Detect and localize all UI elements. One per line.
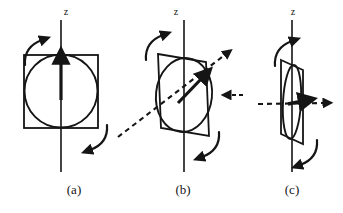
precession-arrow-upper-c [275, 41, 292, 66]
panel-label-c: (c) [272, 182, 312, 198]
panel-b [118, 20, 226, 172]
panel-a [24, 20, 107, 172]
z-axis-label-b: z [166, 6, 186, 17]
z-axis-label-a: z [56, 6, 76, 17]
z-axis-label-c: z [283, 6, 303, 17]
panel-label-a: (a) [54, 182, 94, 198]
panel-c [229, 20, 325, 172]
precession-arrow-upper-b [146, 35, 163, 60]
dashed-tilt-axis-b [118, 54, 226, 137]
panel-label-b: (b) [163, 182, 203, 198]
